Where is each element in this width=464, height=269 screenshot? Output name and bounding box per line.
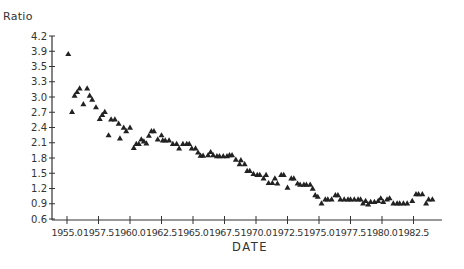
triangle-marker <box>93 104 99 109</box>
triangle-marker <box>69 109 75 114</box>
plot-area: 4.23.93.53.33.02.72.42.11.81.51.20.90.6 … <box>0 0 464 269</box>
x-tick-label: 1957.5 <box>83 227 114 238</box>
y-tick-label: 3.3 <box>31 76 47 87</box>
triangle-marker <box>274 180 280 185</box>
x-axis-title: DATE <box>232 240 268 254</box>
triangle-marker <box>166 137 172 142</box>
triangle-marker <box>65 51 71 56</box>
x-tick-label: 1975.0 <box>304 227 335 238</box>
y-tick-label: 1.5 <box>31 168 47 179</box>
y-tick-label: 0.6 <box>31 214 47 225</box>
triangle-marker <box>429 196 435 201</box>
x-tick-label: 1960.0 <box>115 227 146 238</box>
x-tick-label: 1962.5 <box>146 227 177 238</box>
x-axis-ticks: 1955.01957.51960.01962.51965.01967.51970… <box>52 216 430 238</box>
triangle-marker <box>159 132 165 137</box>
y-tick-label: 2.7 <box>31 107 47 118</box>
scatter-chart: 4.23.93.53.33.02.72.42.11.81.51.20.90.6 … <box>0 0 464 269</box>
x-tick-label: 1972.5 <box>272 227 303 238</box>
triangle-marker <box>127 125 133 130</box>
y-axis-title: Ratio <box>3 10 33 23</box>
triangle-marker <box>174 141 180 146</box>
x-tick-label: 1982.5 <box>398 227 429 238</box>
x-tick-label: 1977.5 <box>335 227 366 238</box>
y-tick-label: 3.9 <box>31 46 47 57</box>
triangle-marker <box>238 157 244 162</box>
triangle-marker <box>106 132 112 137</box>
triangle-marker <box>269 180 275 185</box>
triangle-marker <box>272 175 278 180</box>
triangle-marker <box>77 85 83 90</box>
y-tick-label: 1.8 <box>31 153 47 164</box>
y-tick-label: 1.2 <box>31 183 47 194</box>
triangle-marker <box>87 92 93 97</box>
data-points <box>65 51 435 207</box>
triangle-marker <box>84 85 90 90</box>
x-tick-label: 1980.0 <box>367 227 398 238</box>
triangle-marker <box>307 181 313 186</box>
triangle-marker <box>285 184 291 189</box>
triangle-marker <box>80 101 86 106</box>
triangle-marker <box>193 145 199 150</box>
triangle-marker <box>102 109 108 114</box>
y-tick-label: 4.2 <box>31 31 47 42</box>
x-tick-label: 1955.0 <box>52 227 83 238</box>
triangle-marker <box>409 198 415 203</box>
y-tick-label: 3.5 <box>31 61 47 72</box>
triangle-marker <box>117 135 123 140</box>
x-tick-label: 1967.5 <box>209 227 240 238</box>
y-tick-label: 3.0 <box>31 92 47 103</box>
triangle-marker <box>419 191 425 196</box>
y-tick-label: 2.1 <box>31 137 47 148</box>
triangle-marker <box>233 157 239 162</box>
x-tick-label: 1970.0 <box>241 227 272 238</box>
triangle-marker <box>112 116 118 121</box>
triangle-marker <box>176 145 182 150</box>
y-tick-label: 2.4 <box>31 122 47 133</box>
triangle-marker <box>263 172 269 177</box>
triangle-marker <box>146 133 152 138</box>
x-tick-label: 1965.0 <box>178 227 209 238</box>
y-tick-label: 0.9 <box>31 198 47 209</box>
